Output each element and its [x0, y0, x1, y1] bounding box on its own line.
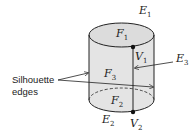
label-e3: E3 — [175, 52, 189, 67]
vertex-v2 — [131, 110, 135, 114]
annotation-edges: edges — [12, 86, 38, 97]
label-e2: E2 — [101, 113, 115, 128]
label-v2: V2 — [130, 117, 142, 132]
annotation-silhouette: Silhouette — [12, 74, 54, 85]
cylinder-diagram: E1 F1 V1 E3 F3 F2 E2 V2 Silhouette edges — [0, 0, 194, 136]
label-e1: E1 — [138, 4, 152, 19]
vertex-v1 — [131, 45, 135, 49]
arrow-left-silhouette — [58, 73, 88, 80]
